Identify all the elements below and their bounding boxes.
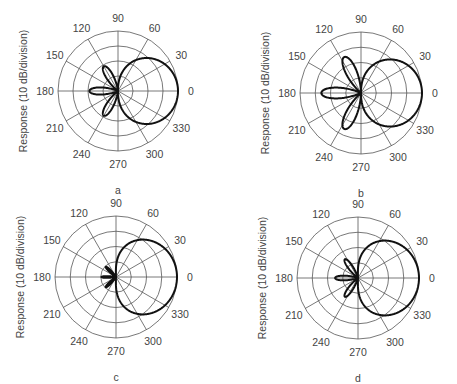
- angle-label: 210: [46, 122, 64, 134]
- angle-label: 330: [172, 122, 190, 134]
- grid-spoke: [63, 277, 116, 308]
- grid-spoke: [86, 277, 117, 330]
- angle-label: 90: [112, 12, 124, 24]
- angle-label: 150: [285, 235, 303, 247]
- angle-label: 270: [107, 345, 125, 357]
- angle-label: 270: [349, 346, 367, 358]
- angle-label: 240: [315, 151, 333, 163]
- angle-label: 210: [285, 309, 303, 321]
- angle-label: 180: [278, 87, 296, 99]
- grid-spoke: [328, 225, 359, 278]
- angle-label: 240: [70, 335, 88, 347]
- angle-label: 330: [416, 124, 434, 136]
- angle-label: 210: [43, 308, 61, 320]
- angle-label: 30: [175, 49, 187, 61]
- grid-spoke: [118, 61, 170, 91]
- grid-spoke: [361, 93, 414, 124]
- grid-spoke: [358, 248, 411, 279]
- angle-label: 0: [432, 87, 438, 99]
- angle-label: 300: [389, 151, 407, 163]
- grid-spoke: [361, 63, 414, 94]
- angle-label: 300: [144, 335, 162, 347]
- grid-spoke: [118, 39, 148, 91]
- grid-spoke: [331, 93, 362, 146]
- angle-label: 60: [147, 207, 159, 219]
- grid-spoke: [116, 247, 169, 278]
- angle-label: 330: [171, 308, 189, 320]
- angle-label: 150: [288, 50, 306, 62]
- angle-label: 30: [416, 235, 428, 247]
- angle-label: 60: [392, 23, 404, 35]
- angle-label: 120: [70, 207, 88, 219]
- polar-chart-c: 0306090120150180210240270300330Response …: [14, 197, 193, 383]
- angle-label: 0: [187, 271, 193, 283]
- grid-spoke: [361, 93, 392, 146]
- angle-label: 120: [315, 23, 333, 35]
- grid-spoke: [66, 61, 118, 91]
- angle-label: 240: [312, 336, 330, 348]
- y-axis-label: Response (10 dB/division): [259, 32, 271, 155]
- angle-label: 240: [73, 148, 91, 160]
- angle-label: 270: [109, 158, 127, 170]
- angle-label: 0: [429, 272, 435, 284]
- polar-chart-a: 0306090120150180210240270300330Response …: [17, 12, 194, 196]
- angle-label: 150: [43, 234, 61, 246]
- panel-label: d: [355, 372, 361, 384]
- grid-spoke: [66, 91, 118, 121]
- angle-label: 90: [352, 198, 364, 210]
- angle-label: 270: [352, 161, 370, 173]
- grid-spoke: [361, 40, 392, 93]
- grid-spoke: [88, 91, 118, 143]
- grid-spoke: [63, 247, 116, 278]
- angle-label: 30: [174, 234, 186, 246]
- angle-label: 180: [33, 271, 51, 283]
- angle-label: 120: [312, 208, 330, 220]
- angle-label: 60: [389, 208, 401, 220]
- angle-label: 300: [146, 148, 164, 160]
- angle-label: 300: [386, 336, 404, 348]
- grid-spoke: [88, 39, 118, 91]
- angle-label: 330: [413, 309, 431, 321]
- angle-label: 150: [46, 49, 64, 61]
- angle-label: 210: [288, 124, 306, 136]
- panel-label: c: [113, 371, 118, 383]
- angle-label: 30: [419, 50, 431, 62]
- angle-label: 180: [36, 85, 54, 97]
- angle-label: 0: [188, 85, 194, 97]
- grid-spoke: [86, 224, 117, 277]
- grid-spoke: [328, 278, 359, 331]
- grid-spoke: [358, 278, 411, 309]
- angle-label: 120: [73, 22, 91, 34]
- grid-spoke: [118, 91, 148, 143]
- polar-pattern-figure: 0306090120150180210240270300330Response …: [0, 0, 457, 384]
- grid-spoke: [116, 277, 169, 308]
- grid-spoke: [331, 40, 362, 93]
- angle-label: 60: [149, 22, 161, 34]
- angle-label: 90: [355, 13, 367, 25]
- angle-label: 90: [110, 197, 122, 209]
- polar-chart-d: 0306090120150180210240270300330Response …: [256, 198, 435, 384]
- grid-spoke: [118, 91, 170, 121]
- y-axis-label: Response (10 dB/division): [256, 217, 268, 340]
- y-axis-label: Response (10 dB/division): [14, 216, 26, 339]
- panel-label: a: [115, 184, 121, 196]
- polar-chart-b: 0306090120150180210240270300330Response …: [259, 13, 438, 199]
- y-axis-label: Response (10 dB/division): [17, 30, 29, 153]
- angle-label: 180: [275, 272, 293, 284]
